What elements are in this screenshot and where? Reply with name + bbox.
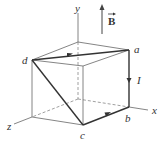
current-label: I bbox=[136, 74, 142, 86]
edge-top-front bbox=[32, 60, 83, 66]
edge-bottom-front bbox=[32, 117, 83, 125]
edge-top-back bbox=[78, 42, 129, 50]
z-axis-label: z bbox=[6, 120, 12, 132]
x-axis-label: x bbox=[151, 104, 157, 116]
cube-diagram: B y x z a b c d I bbox=[0, 0, 162, 143]
vertex-label-c: c bbox=[80, 129, 85, 141]
vertex-label-a: a bbox=[134, 43, 140, 55]
b-field-label: B bbox=[108, 15, 116, 27]
loop-segment-cd bbox=[32, 60, 83, 125]
y-axis-label: y bbox=[74, 2, 80, 14]
b-field-vector: B bbox=[100, 4, 117, 34]
hidden-edge-x-axis bbox=[78, 99, 129, 107]
up-arrow-icon bbox=[100, 4, 105, 10]
vertex-label-b: b bbox=[125, 112, 131, 124]
hidden-edge-z-axis bbox=[32, 99, 78, 117]
vertex-label-d: d bbox=[22, 54, 28, 66]
current-arrows bbox=[67, 53, 132, 117]
arrow-down-icon bbox=[127, 78, 132, 83]
current-loop bbox=[32, 50, 129, 125]
x-axis bbox=[129, 107, 148, 110]
z-axis bbox=[14, 117, 32, 124]
